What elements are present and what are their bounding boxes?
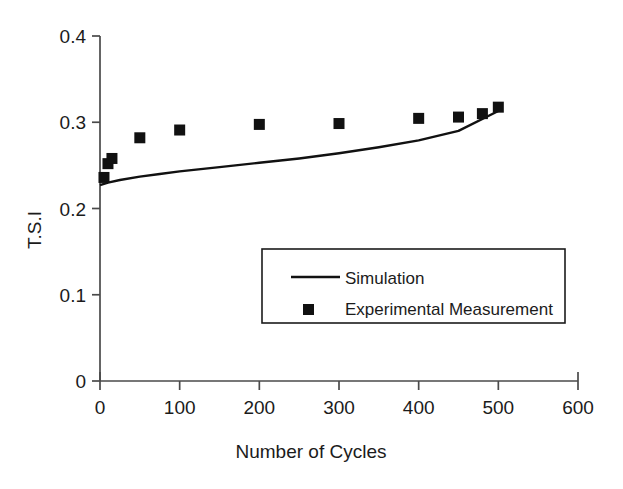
y-tick-label: 0.1	[60, 285, 86, 306]
legend-square-swatch	[303, 304, 314, 315]
x-tick-label: 200	[243, 397, 275, 418]
x-tick-label: 400	[403, 397, 435, 418]
x-tick-label: 500	[482, 397, 514, 418]
y-tick-label: 0.2	[60, 199, 86, 220]
y-axis-ticks	[92, 36, 578, 390]
experimental-markers	[98, 102, 503, 183]
x-axis-tick-labels: 0100200300400500600	[95, 397, 594, 418]
x-tick-label: 300	[323, 397, 355, 418]
axes-group	[92, 36, 578, 390]
data-group	[98, 102, 503, 186]
chart-svg: 00.10.20.30.4 0100200300400500600 Number…	[0, 0, 623, 489]
x-tick-label: 0	[95, 397, 106, 418]
x-tick-label: 600	[562, 397, 594, 418]
y-axis-title: T.S.I	[24, 211, 45, 249]
legend-label-experimental: Experimental Measurement	[345, 300, 553, 319]
y-tick-label: 0.4	[60, 26, 87, 47]
x-axis-title: Number of Cycles	[236, 441, 387, 462]
data-point-marker	[254, 119, 265, 130]
data-point-marker	[453, 112, 464, 123]
y-tick-label: 0.3	[60, 112, 86, 133]
data-point-marker	[413, 113, 424, 124]
legend-label-simulation: Simulation	[345, 269, 424, 288]
data-point-marker	[477, 108, 488, 119]
legend: Simulation Experimental Measurement	[262, 249, 565, 323]
chart-container: 00.10.20.30.4 0100200300400500600 Number…	[0, 0, 623, 489]
simulation-line	[100, 111, 498, 185]
y-axis-tick-labels: 00.10.20.30.4	[60, 26, 87, 392]
data-point-marker	[334, 118, 345, 129]
data-point-marker	[174, 125, 185, 136]
data-point-marker	[493, 102, 504, 113]
x-tick-label: 100	[164, 397, 196, 418]
data-point-marker	[134, 132, 145, 143]
data-point-marker	[106, 153, 117, 164]
data-point-marker	[98, 172, 109, 183]
y-tick-label: 0	[75, 371, 86, 392]
